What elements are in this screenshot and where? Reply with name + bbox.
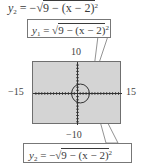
callout-y2-equation: y2 = −√9 − (x − 2)2 [29, 147, 112, 165]
eq-radicand: 9 − (x − 2) [58, 23, 105, 36]
ymax-label: 10 [71, 46, 81, 57]
xmin-label: −15 [8, 86, 24, 97]
ymin-label: −10 [66, 129, 82, 140]
eq-exponent: 2 [105, 24, 109, 32]
xmax-label: 15 [126, 86, 136, 97]
eq-operator: = − [37, 149, 55, 161]
eq-operator: = [40, 24, 52, 36]
callout-y1-equation: y1 = √9 − (x − 2)2 [32, 22, 109, 40]
eq-exponent: 2 [109, 149, 113, 157]
plot-area [33, 62, 122, 125]
graph-window [32, 61, 121, 124]
eq-radicand: 9 − (x − 2) [61, 148, 108, 161]
